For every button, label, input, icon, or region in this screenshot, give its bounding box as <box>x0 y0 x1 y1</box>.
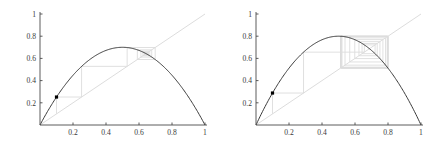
initial-point-marker <box>55 95 58 98</box>
logistic-map-curve <box>40 47 205 125</box>
identity-diagonal-line <box>256 14 421 125</box>
initial-point-marker <box>271 91 274 94</box>
x-tick-label: 1 <box>203 128 207 137</box>
y-tick-label: 0.8 <box>27 32 37 41</box>
x-tick-label: 0.4 <box>101 128 111 137</box>
x-tick-label: 0.8 <box>383 128 393 137</box>
y-tick-label: 0.8 <box>243 32 253 41</box>
y-tick-label: 0.4 <box>27 76 37 85</box>
x-tick-label: 0.8 <box>167 128 177 137</box>
y-tick-label: 0.2 <box>27 99 37 108</box>
logistic-map-curve <box>256 36 421 125</box>
y-tick-label: 0.4 <box>243 76 253 85</box>
chart-panel-left: 0.20.40.60.810.20.40.60.81 <box>0 0 218 147</box>
x-tick-label: 0.6 <box>134 128 144 137</box>
cobweb-figure: 0.20.40.60.810.20.40.60.81 0.20.40.60.81… <box>0 0 437 147</box>
x-tick-label: 0.6 <box>350 128 360 137</box>
y-tick-label: 0.6 <box>27 54 37 63</box>
x-tick-label: 1 <box>419 128 423 137</box>
y-tick-label: 1 <box>248 10 252 19</box>
x-tick-label: 0.4 <box>317 128 327 137</box>
plot-left: 0.20.40.60.810.20.40.60.81 <box>0 0 218 147</box>
y-tick-label: 0.2 <box>243 99 253 108</box>
chart-panel-right: 0.20.40.60.810.20.40.60.81 <box>218 0 436 147</box>
y-tick-label: 0.6 <box>243 54 253 63</box>
identity-diagonal-line <box>40 14 205 125</box>
y-tick-label: 1 <box>32 10 36 19</box>
x-tick-label: 0.2 <box>284 128 294 137</box>
plot-right: 0.20.40.60.810.20.40.60.81 <box>218 0 437 147</box>
x-tick-label: 0.2 <box>68 128 78 137</box>
